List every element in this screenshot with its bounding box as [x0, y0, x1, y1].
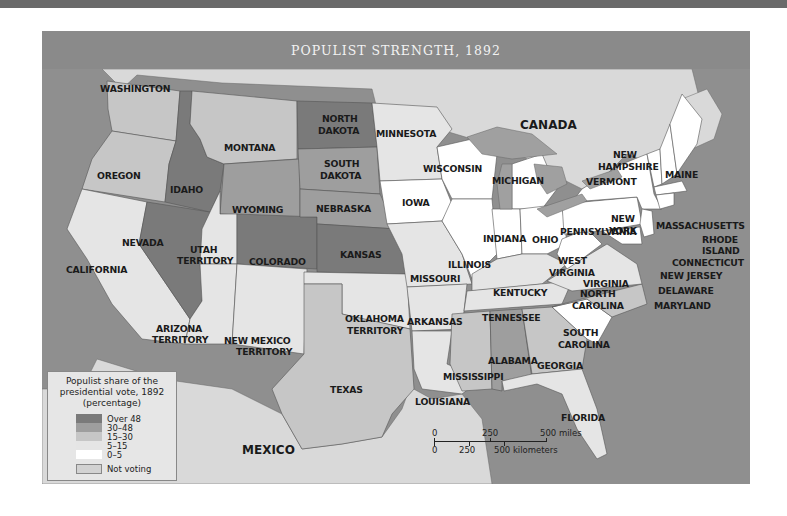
label-south-dakota-2: DAKOTA [320, 170, 362, 181]
label-vermont: VERMONT [586, 176, 637, 187]
label-california: CALIFORNIA [66, 264, 128, 275]
legend: Populist share of the presidential vote,… [47, 371, 177, 481]
label-south-dakota-1: SOUTH [324, 158, 359, 169]
label-florida: FLORIDA [561, 412, 606, 423]
label-georgia: GEORGIA [537, 360, 584, 371]
scale-miles-250: 250 [482, 428, 498, 438]
label-tennessee: TENNESSEE [482, 312, 540, 323]
label-south-carolina-1: SOUTH [563, 327, 598, 338]
label-north-dakota-1: NORTH [322, 113, 358, 124]
label-arkansas: ARKANSAS [407, 316, 463, 327]
label-rhode-island-1: RHODE [702, 234, 738, 245]
label-arizona-2: TERRITORY [152, 334, 209, 345]
legend-items: Over 48 30–48 15–30 5–15 0–5 Not votin [76, 414, 176, 473]
label-wisconsin: WISCONSIN [423, 163, 482, 174]
label-utah-2: TERRITORY [177, 255, 234, 266]
label-maine: MAINE [665, 169, 698, 180]
label-north-dakota-2: DAKOTA [318, 125, 360, 136]
label-kansas: KANSAS [340, 249, 382, 260]
label-west-virginia-2: VIRGINIA [549, 267, 596, 278]
label-new-mexico-1: NEW MEXICO [224, 335, 291, 346]
label-new-mexico-2: TERRITORY [236, 346, 293, 357]
label-mississippi: MISSISSIPPI [443, 371, 503, 382]
legend-item-0-5: 0–5 [76, 450, 176, 459]
label-new-jersey: NEW JERSEY [660, 270, 723, 281]
label-virginia: VIRGINIA [583, 278, 630, 289]
scale-bar: 0 250 500 miles 0 250 500 kilometers [430, 428, 590, 464]
swatch-15-30 [76, 432, 102, 441]
label-louisiana: LOUISIANA [415, 396, 471, 407]
label-canada: CANADA [520, 118, 577, 132]
label-texas: TEXAS [330, 384, 363, 395]
label-new-york-2: YORK [608, 225, 638, 236]
label-michigan: MICHIGAN [492, 175, 544, 186]
map-frame: POPULIST STRENGTH, 1892 [42, 31, 750, 484]
label-mexico: MEXICO [242, 443, 295, 457]
label-colorado: COLORADO [249, 256, 306, 267]
legend-title-line3: (percentage) [48, 398, 176, 409]
top-strip [0, 0, 787, 8]
label-illinois: ILLINOIS [448, 259, 492, 270]
label-wyoming: WYOMING [232, 204, 283, 215]
label-nebraska: NEBRASKA [316, 203, 372, 214]
swatch-30-48 [76, 423, 102, 432]
swatch-not-voting [76, 464, 102, 474]
label-oregon: OREGON [97, 170, 141, 181]
label-north-carolina-2: CAROLINA [572, 300, 625, 311]
label-oklahoma-1: OKLAHOMA [345, 313, 405, 324]
label-arizona-1: ARIZONA [156, 323, 203, 334]
label-alabama: ALABAMA [488, 355, 539, 366]
label-ohio: OHIO [532, 234, 559, 245]
scale-miles-500: 500 miles [540, 428, 582, 438]
label-west-virginia-1: WEST [558, 255, 588, 266]
label-nevada: NEVADA [122, 237, 165, 248]
label-minnesota: MINNESOTA [376, 128, 437, 139]
legend-title-line2: presidential vote, 1892 [48, 387, 176, 398]
swatch-5-15 [76, 441, 102, 450]
label-oklahoma-2: TERRITORY [347, 325, 404, 336]
state-montana [190, 91, 297, 164]
legend-title: Populist share of the presidential vote,… [48, 376, 176, 409]
label-montana: MONTANA [224, 142, 276, 153]
label-indiana: INDIANA [483, 233, 527, 244]
label-new-hampshire-2: HAMPSHIRE [598, 161, 659, 172]
scale-tick [490, 438, 491, 442]
swatch-0-5 [76, 450, 102, 459]
scale-tick [546, 438, 547, 442]
label-north-carolina-1: NORTH [580, 288, 616, 299]
label-kentucky: KENTUCKY [493, 287, 548, 298]
swatch-over-48 [76, 414, 102, 423]
label-idaho: IDAHO [170, 184, 203, 195]
scale-km-0: 0 [432, 445, 437, 455]
label-connecticut: CONNECTICUT [672, 257, 745, 268]
legend-item-not-voting: Not voting [76, 464, 176, 473]
label-maryland: MARYLAND [654, 300, 711, 311]
label-delaware: DELAWARE [658, 285, 714, 296]
map-title: POPULIST STRENGTH, 1892 [291, 43, 501, 58]
title-bar: POPULIST STRENGTH, 1892 [42, 31, 750, 69]
label-missouri: MISSOURI [410, 273, 460, 284]
legend-label: Not voting [107, 464, 151, 474]
label-new-york-1: NEW [611, 213, 635, 224]
label-washington: WASHINGTON [100, 83, 170, 94]
label-new-hampshire-1: NEW [613, 149, 637, 160]
scale-km-250: 250 [459, 445, 475, 455]
legend-item-5-15: 5–15 [76, 441, 176, 450]
legend-label: 0–5 [107, 450, 122, 460]
label-massachusetts: MASSACHUSETTS [656, 220, 745, 231]
label-utah-1: UTAH [190, 244, 217, 255]
scale-miles-0: 0 [432, 428, 437, 438]
scale-km-500: 500 kilometers [494, 445, 558, 455]
legend-title-line1: Populist share of the [48, 376, 176, 387]
label-south-carolina-2: CAROLINA [558, 339, 611, 350]
label-iowa: IOWA [402, 197, 431, 208]
label-rhode-island-2: ISLAND [702, 245, 740, 256]
